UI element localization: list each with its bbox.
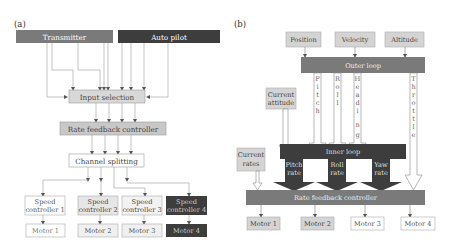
outer-loop-label: Outer loop: [345, 62, 381, 70]
rate-to-channel-connectors: [92, 135, 131, 153]
svg-text:t: t: [412, 115, 415, 123]
motor-4-b-label: Motor 4: [405, 220, 432, 228]
motor-4-b: Motor 4: [401, 217, 435, 230]
svg-text:t: t: [316, 91, 319, 99]
pitch-rate-arrow: Pitch rate: [273, 159, 315, 191]
speed-controller-4-line2: controller 4: [167, 206, 206, 214]
motor-1-a: Motor 1: [26, 224, 65, 237]
yaw-rate-arrow: Yaw rate: [360, 159, 402, 191]
speed-controller-2: Speed controller 2: [78, 196, 118, 215]
svg-text:l: l: [336, 99, 338, 107]
motor-2-b-label: Motor 2: [304, 220, 331, 228]
svg-text:i: i: [316, 83, 318, 91]
transmitter-box: Transmitter: [16, 30, 113, 43]
input-to-rate-connectors: [96, 103, 135, 121]
input-to-outer-connectors: [305, 47, 405, 56]
motor-1-b-label: Motor 1: [250, 220, 277, 228]
current-attitude-line1: Current: [268, 91, 295, 99]
panel-a: (a) Transmitter Auto pilot Input selecti: [14, 19, 220, 237]
motor-2-a-label: Motor 2: [85, 227, 112, 235]
panel-b-label: (b): [234, 19, 246, 29]
input-selection-label: Input selection: [80, 93, 135, 102]
svg-text:t: t: [412, 107, 415, 115]
motor-2-b: Motor 2: [301, 217, 334, 230]
svg-text:i: i: [356, 107, 358, 115]
speed-controller-3: Speed controller 3: [122, 196, 162, 215]
speed-controller-1-line1: Speed: [35, 198, 57, 206]
speed-controller-2-line1: Speed: [88, 198, 110, 206]
transmitter-label: Transmitter: [43, 33, 87, 42]
yaw-rate-line2: rate: [374, 169, 388, 177]
svg-text:o: o: [336, 83, 340, 91]
speed-to-motor-connectors: [43, 215, 189, 223]
speed-controller-3-line1: Speed: [132, 198, 154, 206]
svg-text:a: a: [356, 91, 360, 99]
channel-splitting-box: Channel splitting: [69, 154, 144, 167]
roll-rate-arrow: Roll rate: [316, 159, 358, 191]
diagram-canvas: (a) Transmitter Auto pilot Input selecti: [0, 0, 452, 249]
altitude-label: Altitude: [390, 36, 418, 44]
rate-to-motor-connectors: [261, 205, 410, 216]
rate-feedback-controller-box-a: Rate feedback controller: [60, 122, 166, 135]
speed-controller-1-line2: controller 1: [25, 206, 64, 214]
svg-text:c: c: [316, 99, 320, 107]
rate-feedback-label-a: Rate feedback controller: [68, 125, 159, 134]
position-box: Position: [286, 32, 321, 47]
speed-controller-4-line1: Speed: [176, 198, 198, 206]
current-rates-line2: rates: [242, 160, 260, 168]
motor-1-b: Motor 1: [247, 217, 280, 230]
motor-3-a: Motor 3: [122, 224, 162, 237]
speed-controller-1: Speed controller 1: [25, 196, 65, 215]
yaw-rate-line1: Yaw: [373, 161, 388, 169]
pitch-rate-line1: Pitch: [285, 161, 303, 169]
motor-2-a: Motor 2: [78, 224, 118, 237]
panel-a-label: (a): [14, 19, 26, 29]
panel-b: (b) Position Velocity Altitude Outer loo…: [234, 19, 435, 230]
current-attitude-box: Current attitude: [266, 88, 296, 109]
svg-text:e: e: [412, 131, 416, 139]
motor-3-b-label: Motor 3: [354, 220, 381, 228]
svg-text:l: l: [336, 91, 338, 99]
autopilot-box: Auto pilot: [118, 30, 220, 43]
throttle-channel-arrow: Throttle: [405, 73, 422, 190]
outer-loop-box: Outer loop: [301, 57, 425, 73]
motor-3-a-label: Motor 3: [129, 227, 156, 235]
speed-controller-3-line2: controller 3: [122, 206, 161, 214]
velocity-label: Velocity: [341, 36, 369, 44]
svg-text:o: o: [412, 99, 416, 107]
transmitter-connectors: [47, 43, 168, 97]
current-rates-line1: Current: [238, 151, 265, 159]
roll-rate-line1: Roll: [330, 161, 343, 169]
position-label: Position: [290, 36, 317, 44]
motor-4-a-label: Motor 4: [173, 227, 200, 235]
current-rates-box: Current rates: [237, 148, 265, 171]
rates-arrow: [253, 171, 262, 190]
input-selection-box: Input selection: [69, 90, 145, 103]
motor-1-a-label: Motor 1: [32, 227, 59, 235]
channel-to-speed-connectors: [43, 167, 189, 195]
motor-3-b: Motor 3: [351, 217, 384, 230]
speed-controller-4: Speed controller 4: [166, 196, 207, 215]
svg-text:T: T: [411, 75, 416, 83]
svg-text:P: P: [315, 75, 320, 83]
inner-loop-label: Inner loop: [326, 148, 361, 156]
svg-text:H: H: [355, 75, 361, 83]
altitude-box: Altitude: [385, 32, 424, 47]
svg-text:l: l: [412, 123, 414, 131]
rate-feedback-label-b: Rate feedback controller: [294, 194, 378, 202]
autopilot-label: Auto pilot: [150, 33, 187, 42]
channel-splitting-label: Channel splitting: [75, 157, 138, 166]
speed-controller-2-line2: controller 2: [78, 206, 117, 214]
current-attitude-line2: attitude: [268, 99, 294, 107]
inner-loop-box: Inner loop: [280, 144, 406, 159]
roll-rate-line2: rate: [330, 169, 344, 177]
velocity-box: Velocity: [335, 32, 375, 47]
svg-text:e: e: [356, 83, 360, 91]
pitch-rate-line2: rate: [287, 169, 301, 177]
motor-4-a: Motor 4: [166, 224, 207, 237]
rate-feedback-controller-box-b: Rate feedback controller: [246, 190, 425, 205]
